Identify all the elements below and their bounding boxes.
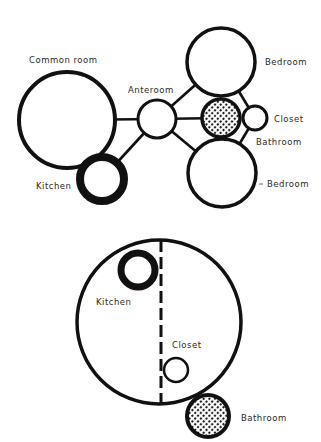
label-closet-bottom: Closet: [172, 341, 202, 350]
label-bathroom-top: Bathroom: [256, 138, 302, 147]
bottom-dwelling-circle: [77, 240, 241, 404]
bottom-kitchen-circle: [121, 253, 155, 287]
label-bedroom-bottom: Bedroom: [267, 180, 309, 189]
top-kitchen-circle: [80, 157, 124, 201]
label-bedroom-top: Bedroom: [265, 58, 307, 67]
top-bathroom-circle: [202, 99, 240, 137]
top-bedroom-bottom-circle: [188, 139, 256, 207]
bottom-diagram-rooms: [77, 240, 241, 437]
top-bedroom-top-circle: [187, 28, 255, 96]
label-closet-top: Closet: [274, 115, 304, 124]
label-anteroom: Anteroom: [128, 86, 174, 95]
top-closet-circle: [243, 106, 267, 130]
bottom-bathroom-circle: [187, 395, 229, 437]
label-kitchen-top: Kitchen: [36, 182, 71, 191]
label-kitchen-bottom: Kitchen: [96, 298, 131, 307]
top-anteroom-circle: [138, 100, 176, 138]
bottom-closet-circle: [164, 358, 188, 382]
label-common-room: Common room: [29, 56, 97, 65]
label-bathroom-bottom: Bathroom: [241, 414, 287, 423]
